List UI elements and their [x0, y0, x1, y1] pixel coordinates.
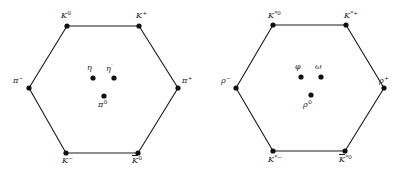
particle-dot-pi0 [101, 93, 106, 98]
particle-dot-Kstar0 [270, 22, 275, 27]
particle-charge: − [226, 75, 231, 81]
particle-dot-Kstarplus [343, 22, 348, 27]
particle-dot-rhominus [233, 85, 238, 90]
particle-label-Kbar0: K0 [132, 156, 142, 165]
particle-label-rhominus: ρ− [221, 76, 231, 85]
particle-label-phi: φ [295, 63, 301, 71]
particle-symbol: ω [315, 62, 322, 71]
particle-symbol: π [13, 76, 18, 85]
particle-charge: *0 [274, 10, 280, 16]
particle-charge: 0 [138, 155, 142, 161]
particle-charge: *0 [345, 154, 351, 160]
particle-charge: + [142, 10, 147, 16]
particle-label-pi0: π0 [98, 100, 107, 109]
particle-label-Kstarplus: K*+ [344, 11, 358, 20]
particle-charge: 0 [308, 99, 312, 105]
particle-symbol: π [98, 100, 103, 109]
particle-dot-eta [90, 75, 95, 80]
particle-charge: *+ [350, 10, 357, 16]
meson-octet-diagrams [0, 0, 409, 173]
particle-dot-Kplus [136, 23, 141, 28]
particle-label-rho0: ρ0 [303, 100, 312, 109]
particle-label-Kstarminus: K*− [268, 155, 282, 164]
particle-charge: 0 [104, 99, 108, 105]
particle-label-eta: η [87, 64, 92, 72]
vector-meson-octet [233, 22, 386, 153]
particle-label-K0: K0 [61, 11, 71, 20]
particle-symbol: ρ [221, 76, 226, 85]
particle-dot-Kstarminus [270, 148, 275, 153]
particle-dot-Kstarbar0 [342, 148, 347, 153]
particle-dot-piplus [175, 85, 180, 90]
particle-label-Kminus: K− [62, 156, 73, 165]
particle-label-etaprime: η′ [106, 64, 113, 73]
particle-dot-phi [298, 74, 303, 79]
particle-symbol: π [182, 76, 187, 85]
particle-dot-rho0 [308, 92, 313, 97]
particle-symbol: ρ [379, 76, 384, 85]
particle-label-Kstar0: K*0 [268, 11, 281, 20]
particle-dot-rhoplus [381, 85, 386, 90]
particle-charge: ′ [111, 63, 112, 69]
particle-charge: 0 [67, 10, 71, 16]
particle-charge: − [68, 155, 73, 161]
particle-symbol: φ [295, 62, 301, 71]
particle-label-rhoplus: ρ+ [379, 76, 389, 85]
particle-label-piminus: π− [13, 76, 23, 85]
particle-charge: + [384, 75, 389, 81]
particle-label-Kstarbar0: K*0 [339, 155, 352, 164]
particle-charge: + [188, 75, 193, 81]
particle-label-omega: ω [315, 63, 322, 71]
pseudoscalar-meson-octet [26, 23, 180, 155]
particle-symbol: ρ [303, 100, 308, 109]
particle-label-Kplus: K+ [136, 11, 147, 20]
hexagon-outline [29, 26, 178, 153]
particle-charge: − [19, 75, 24, 81]
hexagon-outline [236, 25, 384, 151]
particle-symbol: η [87, 63, 92, 72]
particle-label-piplus: π+ [182, 76, 192, 85]
particle-dot-K0 [64, 23, 69, 28]
particle-charge: *− [274, 154, 281, 160]
particle-dot-omega [318, 74, 323, 79]
particle-dot-etaprime [111, 75, 116, 80]
particle-dot-piminus [26, 85, 31, 90]
